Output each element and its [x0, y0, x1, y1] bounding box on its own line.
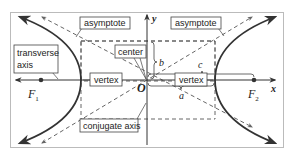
svg-text:asymptote: asymptote	[175, 18, 217, 28]
origin-label: O	[137, 81, 146, 95]
b-symbol: b	[159, 57, 164, 68]
svg-text:center: center	[118, 47, 143, 57]
hyperbola-diagram: b c a y x O F1 F2 asymptote asymptote tr…	[0, 0, 295, 156]
c-symbol: c	[198, 59, 203, 70]
svg-text:conjugate axis: conjugate axis	[83, 121, 141, 131]
focus-1-point	[39, 78, 44, 83]
callout-vertex-right: vertex	[175, 73, 213, 86]
a-symbol: a	[179, 90, 184, 101]
focus-2-point	[252, 78, 257, 83]
svg-text:asymptote: asymptote	[84, 18, 126, 28]
svg-text:transverse: transverse	[17, 48, 59, 58]
svg-text:vertex: vertex	[179, 75, 204, 85]
svg-text:vertex: vertex	[94, 75, 119, 85]
svg-text:axis: axis	[17, 60, 34, 70]
y-axis-label: y	[151, 13, 157, 24]
x-axis-label: x	[270, 83, 276, 94]
